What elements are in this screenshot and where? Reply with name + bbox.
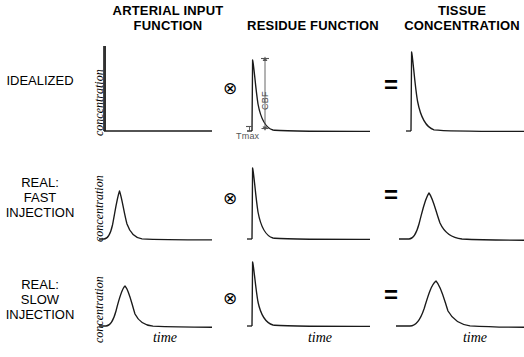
curve-residue-function bbox=[252, 60, 370, 131]
curve-residue-function bbox=[252, 262, 370, 326]
perfusion-deconvolution-figure: ARTERIAL INPUT FUNCTION RESIDUE FUNCTION… bbox=[0, 0, 524, 357]
curve-arterial-input-function bbox=[99, 286, 212, 327]
panel-idealized-tissue bbox=[406, 52, 524, 131]
curve-tissue-concentration bbox=[399, 193, 524, 240]
panel-real-slow-residue bbox=[247, 262, 370, 326]
panel-real-fast-aif bbox=[99, 191, 212, 240]
panel-real-fast-tissue bbox=[399, 193, 524, 240]
panel-idealized-aif bbox=[104, 46, 212, 131]
curve-tissue-concentration bbox=[396, 281, 524, 327]
curve-arterial-input-function bbox=[99, 191, 212, 240]
curve-tissue-concentration bbox=[411, 52, 524, 131]
curves-canvas bbox=[0, 0, 524, 357]
curve-residue-function bbox=[252, 168, 370, 239]
panel-real-fast-residue bbox=[247, 168, 370, 239]
panel-real-slow-aif bbox=[99, 247, 212, 327]
panel-idealized-residue bbox=[246, 57, 370, 132]
panel-real-slow-tissue bbox=[396, 281, 524, 327]
